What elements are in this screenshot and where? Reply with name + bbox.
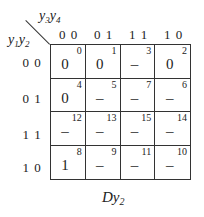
kmap-cell: 5– xyxy=(86,79,121,113)
minterm-index: 5 xyxy=(112,80,117,90)
kmap-cell: 11– xyxy=(121,146,156,180)
kmap-cell: 20 xyxy=(155,45,190,79)
minterm-index: 2 xyxy=(182,46,187,56)
cell-value: – xyxy=(155,124,190,139)
minterm-index: 3 xyxy=(146,46,151,56)
minterm-index: 0 xyxy=(77,46,82,56)
column-header: 1 0 xyxy=(156,28,191,42)
minterm-index: 14 xyxy=(177,113,187,123)
kmap-cell: 13– xyxy=(86,112,121,146)
col-var-2-sub: 4 xyxy=(56,15,61,25)
row-variables-label: y1y2 xyxy=(8,33,29,47)
caption-subscript: 2 xyxy=(120,196,125,207)
kmap-cell: 81 xyxy=(51,146,86,180)
minterm-index: 11 xyxy=(142,147,152,157)
minterm-index: 10 xyxy=(177,147,187,157)
kmap-cell: 40 xyxy=(51,79,86,113)
minterm-index: 15 xyxy=(141,113,151,123)
kmap-caption: Dy2 xyxy=(102,190,125,205)
kmap-cell: 10– xyxy=(155,146,190,180)
cell-value: – xyxy=(51,124,85,139)
cell-value: – xyxy=(155,158,190,173)
minterm-index: 9 xyxy=(112,147,117,157)
kmap-cell: 14– xyxy=(155,112,190,146)
kmap-cell: 3– xyxy=(121,45,156,79)
minterm-index: 1 xyxy=(112,46,117,56)
minterm-index: 6 xyxy=(182,80,187,90)
kmap-cell: 6– xyxy=(155,79,190,113)
cell-value: 0 xyxy=(51,57,85,72)
cell-value: 0 xyxy=(155,57,190,72)
cell-value: – xyxy=(155,91,190,106)
kmap-cell: 12– xyxy=(51,112,86,146)
row-header: 1 1 xyxy=(18,128,46,142)
kmap-cell: 7– xyxy=(121,79,156,113)
column-header: 0 1 xyxy=(86,28,121,42)
cell-value: – xyxy=(86,91,120,106)
kmap-cell: 9– xyxy=(86,146,121,180)
minterm-index: 12 xyxy=(72,113,82,123)
cell-value: – xyxy=(86,158,120,173)
kmap-grid: 00 10 3– 20 40 5– 7– 6– 12– 13– 15– 14– … xyxy=(50,44,191,180)
kmap-cell: 15– xyxy=(121,112,156,146)
cell-value: – xyxy=(86,124,120,139)
cell-value: 0 xyxy=(86,57,120,72)
row-header: 1 0 xyxy=(18,161,46,175)
cell-value: – xyxy=(121,158,155,173)
row-header: 0 1 xyxy=(18,92,46,106)
cell-value: – xyxy=(121,91,155,106)
cell-value: 1 xyxy=(51,158,85,173)
row-var-2-sub: 2 xyxy=(25,39,30,49)
minterm-index: 4 xyxy=(77,80,82,90)
minterm-index: 8 xyxy=(77,147,82,157)
kmap-cell: 10 xyxy=(86,45,121,79)
column-variables-label: y3y4 xyxy=(39,9,60,23)
minterm-index: 7 xyxy=(146,80,151,90)
column-header: 1 1 xyxy=(121,28,156,42)
caption-main: Dy xyxy=(102,189,120,205)
cell-value: – xyxy=(121,124,155,139)
cell-value: – xyxy=(121,57,155,72)
minterm-index: 13 xyxy=(107,113,117,123)
row-header: 0 0 xyxy=(18,56,46,70)
column-header: 0 0 xyxy=(51,28,86,42)
kmap-cell: 00 xyxy=(51,45,86,79)
cell-value: 0 xyxy=(51,91,85,106)
